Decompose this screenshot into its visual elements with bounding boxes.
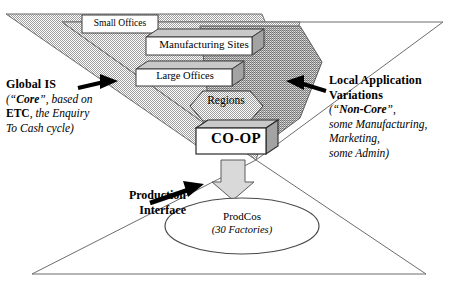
coop-box-top [196, 120, 278, 128]
local-variations-caption: Local Application Variations (“Non-Core”… [329, 73, 427, 161]
local-variations-line-2: some Manufacturing, [329, 117, 427, 132]
global-is-line-3: To Cash cycle) [6, 121, 93, 136]
global-is-line2-rest: , the Enquiry [30, 107, 90, 119]
local-variations-noncore-term: Non-Core [339, 103, 386, 115]
local-variations-line-4: some Admin) [329, 146, 427, 161]
global-is-line1-open: (“ [6, 93, 16, 105]
manufacturing-sites-box-top [146, 29, 264, 37]
local-variations-line-3: Marketing, [329, 131, 427, 146]
prodcos-name: ProdCos [200, 210, 284, 223]
prodcos-label: ProdCos (30 Factories) [200, 210, 284, 236]
large-offices-label: Large Offices [141, 70, 229, 81]
production-interface-line-2: Interface [90, 203, 186, 218]
coop-label: CO-OP [203, 130, 269, 147]
large-offices-box-top [136, 61, 244, 69]
local-variations-line-1: (“Non-Core”, [329, 102, 427, 117]
global-is-caption: Global IS (“Core”, based on ETC, the Enq… [6, 77, 93, 135]
global-is-line-2: ETC, the Enquiry [6, 106, 93, 121]
local-variations-heading-line-1: Local Application [329, 73, 427, 88]
manufacturing-sites-label: Manufacturing Sites [149, 38, 259, 50]
production-interface-caption: Production Interface [90, 188, 186, 218]
diagram-canvas: Small Offices Manufacturing Sites Large … [0, 0, 449, 284]
global-is-core-term: Core [16, 93, 39, 105]
global-is-line1-rest: ”, based on [39, 93, 92, 105]
local-variations-line1-open: (“ [329, 103, 339, 115]
global-is-heading: Global IS [6, 77, 93, 92]
production-interface-line-1: Production [90, 188, 186, 203]
prodcos-sublabel: (30 Factories) [200, 223, 284, 236]
regions-label: Regions [194, 94, 258, 106]
small-offices-label: Small Offices [84, 18, 156, 28]
local-variations-heading-line-2: Variations [329, 88, 427, 103]
local-variations-line1-rest: ”, [387, 103, 396, 115]
global-is-etc-term: ETC [6, 107, 30, 119]
global-is-line-1: (“Core”, based on [6, 92, 93, 107]
